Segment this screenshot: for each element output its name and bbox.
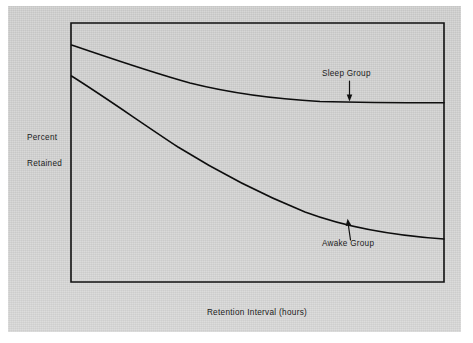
series-line-sleep-group [72, 45, 445, 103]
x-axis-label: Retention Interval (hours) [207, 308, 307, 317]
annotation-leader-awake-group [346, 219, 352, 240]
retention-chart: Sleep Group Awake Group Percent Retained… [0, 0, 473, 343]
plot-frame [71, 23, 444, 282]
y-axis-label-line2: Retained [27, 159, 62, 168]
series-line-awake-group [72, 76, 445, 239]
annotation-label-awake-group: Awake Group [322, 239, 374, 248]
annotation-leader-sleep-group [347, 81, 353, 102]
annotation-label-sleep-group: Sleep Group [322, 69, 371, 78]
figure-page: Sleep Group Awake Group Percent Retained… [0, 0, 473, 343]
y-axis-label-line1: Percent [27, 133, 58, 142]
